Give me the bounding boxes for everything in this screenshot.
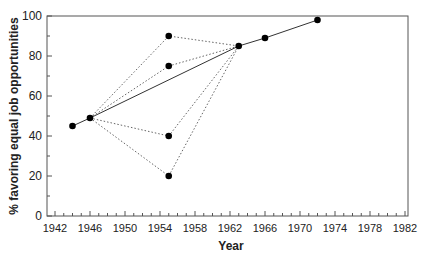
x-tick-label: 1942 xyxy=(43,222,67,234)
x-tick-label: 1946 xyxy=(78,222,102,234)
y-tick-label: 0 xyxy=(35,209,42,223)
y-tick-label: 60 xyxy=(29,89,43,103)
y-tick-label: 20 xyxy=(29,169,43,183)
data-points xyxy=(69,17,321,180)
data-lines xyxy=(73,20,318,176)
x-tick-label: 1966 xyxy=(253,222,277,234)
data-point xyxy=(165,173,172,180)
data-point xyxy=(69,123,76,130)
x-tick-label: 1974 xyxy=(323,222,347,234)
y-axis-label: % favoring equal job opportunities xyxy=(7,17,21,215)
series-line xyxy=(90,46,239,136)
x-tick-label: 1954 xyxy=(148,222,172,234)
y-tick-label: 80 xyxy=(29,49,43,63)
x-tick-label: 1978 xyxy=(358,222,382,234)
data-point xyxy=(87,115,94,122)
data-point xyxy=(262,35,269,42)
x-tick-label: 1962 xyxy=(218,222,242,234)
data-point xyxy=(235,43,242,50)
data-point xyxy=(165,63,172,70)
line-chart: 1942194619501954195819621966197019741978… xyxy=(0,0,423,256)
plot-frame xyxy=(47,16,408,216)
y-tick-label: 40 xyxy=(29,129,43,143)
series-line xyxy=(90,46,239,176)
x-tick-label: 1958 xyxy=(183,222,207,234)
x-tick-label: 1950 xyxy=(113,222,137,234)
series-line xyxy=(73,20,318,126)
data-point xyxy=(314,17,321,24)
x-tick-label: 1982 xyxy=(393,222,417,234)
x-axis-label: Year xyxy=(218,239,244,253)
series-line xyxy=(90,36,239,118)
data-point xyxy=(165,33,172,40)
data-point xyxy=(165,133,172,140)
x-tick-label: 1970 xyxy=(288,222,312,234)
y-tick-label: 100 xyxy=(22,9,42,23)
